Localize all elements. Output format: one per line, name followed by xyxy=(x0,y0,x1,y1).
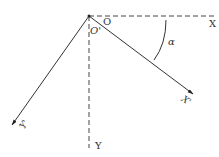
y-prime-axis xyxy=(12,16,89,125)
origin-label: O xyxy=(103,16,111,27)
y-axis-label: Y xyxy=(94,140,102,151)
x-prime-axis xyxy=(89,16,193,94)
rotation-diagram: O O' X Y α X' Y' xyxy=(0,0,219,157)
y-prime-label: Y' xyxy=(17,118,30,131)
origin-prime-label: O' xyxy=(90,25,101,36)
angle-label: α xyxy=(168,36,175,47)
x-axis-label: X xyxy=(209,18,217,29)
angle-arc xyxy=(154,20,166,60)
x-prime-label: X' xyxy=(179,93,193,107)
origin-point xyxy=(88,15,91,18)
